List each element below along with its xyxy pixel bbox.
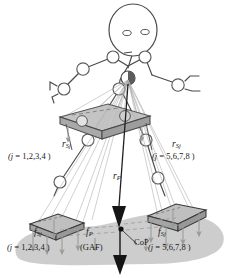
- label-f-sj-left-symbol: fSj: [34, 228, 42, 238]
- label-r-sj-right-symbol: rSj: [172, 140, 181, 150]
- label-r-p: rP: [113, 172, 121, 182]
- label-f-p-symbol: fP: [86, 228, 93, 238]
- label-r-sj-right-index: (j = 5,6,7,8 ): [152, 152, 195, 161]
- label-r-sj-left-symbol: rSj: [62, 140, 71, 150]
- label-f-sj-left-index: (j = 1,2,3,4 ): [7, 243, 50, 252]
- label-f-p-gaf: (GAF): [80, 243, 103, 252]
- label-cop: CoP: [134, 238, 149, 247]
- label-f-sj-right-index: (j = 5,6,7,8 ): [148, 243, 191, 252]
- label-r-sj-left-index: (j = 1,2,3,4 ): [8, 152, 51, 161]
- head-ellipse: [109, 4, 157, 56]
- label-f-sj-right-symbol: fSj: [158, 228, 166, 238]
- biomechanics-figure: rSj (j = 1,2,3,4 ) rSj (j = 5,6,7,8 ) rP…: [0, 0, 234, 278]
